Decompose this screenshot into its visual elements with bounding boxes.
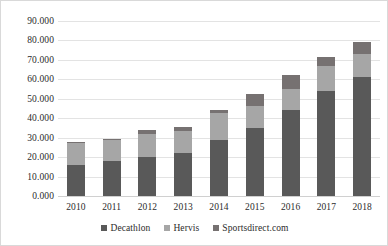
- y-axis-tick-label: 50.000: [27, 94, 54, 104]
- x-axis-tick-label: 2011: [94, 197, 130, 217]
- stacked-bar[interactable]: [317, 57, 335, 196]
- y-axis-tick-label: 0.000: [32, 191, 54, 201]
- bar-segment-hervis[interactable]: [353, 54, 371, 77]
- legend-item-decathlon[interactable]: Decathlon: [101, 223, 150, 233]
- y-axis-tick-label: 90.000: [27, 16, 54, 26]
- bar-segment-decathlon[interactable]: [138, 157, 156, 196]
- bar-series-group: [58, 21, 380, 196]
- bar-segment-decathlon[interactable]: [317, 91, 335, 196]
- stacked-bar[interactable]: [282, 75, 300, 197]
- bar-segment-hervis[interactable]: [210, 113, 228, 139]
- x-axis-tick-label: 2018: [344, 197, 380, 217]
- bar-slot: [273, 21, 309, 196]
- stacked-bar[interactable]: [246, 94, 264, 196]
- bar-segment-decathlon[interactable]: [282, 110, 300, 196]
- stacked-bar[interactable]: [103, 139, 121, 196]
- bar-segment-sportsdirect-com[interactable]: [317, 57, 335, 66]
- bar-slot: [344, 21, 380, 196]
- bar-segment-decathlon[interactable]: [103, 161, 121, 196]
- bar-segment-decathlon[interactable]: [210, 140, 228, 196]
- bar-slot: [58, 21, 94, 196]
- legend-label: Sportsdirect.com: [222, 223, 288, 233]
- legend-swatch-icon: [101, 225, 107, 231]
- bar-segment-hervis[interactable]: [317, 66, 335, 91]
- chart-legend: DecathlonHervisSportsdirect.com: [1, 223, 388, 233]
- y-axis: 0.00010.00020.00030.00040.00050.00060.00…: [1, 21, 54, 196]
- y-axis-tick-label: 70.000: [27, 55, 54, 65]
- stacked-bar[interactable]: [353, 42, 371, 196]
- x-axis-tick-label: 2015: [237, 197, 273, 217]
- y-axis-tick-label: 80.000: [27, 35, 54, 45]
- legend-swatch-icon: [213, 225, 219, 231]
- bar-segment-hervis[interactable]: [138, 134, 156, 157]
- x-axis: 201020112012201320142015201620172018: [58, 197, 380, 217]
- x-axis-tick-label: 2017: [308, 197, 344, 217]
- bar-segment-hervis[interactable]: [103, 140, 121, 161]
- x-axis-tick-label: 2010: [58, 197, 94, 217]
- bar-segment-hervis[interactable]: [67, 143, 85, 165]
- legend-item-hervis[interactable]: Hervis: [164, 223, 199, 233]
- bar-slot: [94, 21, 130, 196]
- bar-segment-hervis[interactable]: [174, 131, 192, 153]
- bar-slot: [237, 21, 273, 196]
- x-axis-tick-label: 2013: [165, 197, 201, 217]
- stacked-bar[interactable]: [138, 130, 156, 196]
- stacked-bar[interactable]: [174, 127, 192, 196]
- bar-slot: [165, 21, 201, 196]
- stacked-bar[interactable]: [67, 142, 85, 196]
- bar-segment-decathlon[interactable]: [67, 165, 85, 196]
- stacked-bar[interactable]: [210, 110, 228, 197]
- bar-slot: [308, 21, 344, 196]
- y-axis-tick-label: 10.000: [27, 172, 54, 182]
- bar-segment-decathlon[interactable]: [246, 128, 264, 196]
- legend-swatch-icon: [164, 225, 170, 231]
- bar-segment-hervis[interactable]: [246, 106, 264, 128]
- y-axis-tick-label: 30.000: [27, 133, 54, 143]
- legend-label: Hervis: [173, 223, 199, 233]
- x-axis-tick-label: 2016: [273, 197, 309, 217]
- bar-segment-sportsdirect-com[interactable]: [282, 75, 300, 90]
- bar-segment-sportsdirect-com[interactable]: [353, 42, 371, 54]
- y-axis-tick-label: 60.000: [27, 74, 54, 84]
- bar-slot: [201, 21, 237, 196]
- bar-segment-sportsdirect-com[interactable]: [246, 94, 264, 106]
- x-axis-tick-label: 2014: [201, 197, 237, 217]
- bar-segment-hervis[interactable]: [282, 89, 300, 110]
- bar-slot: [130, 21, 166, 196]
- legend-label: Decathlon: [110, 223, 150, 233]
- x-axis-tick-label: 2012: [130, 197, 166, 217]
- bar-segment-decathlon[interactable]: [174, 153, 192, 196]
- y-axis-tick-label: 40.000: [27, 113, 54, 123]
- y-axis-tick-label: 20.000: [27, 152, 54, 162]
- bar-segment-decathlon[interactable]: [353, 77, 371, 196]
- legend-item-sportsdirect-com[interactable]: Sportsdirect.com: [213, 223, 288, 233]
- stacked-bar-chart: 0.00010.00020.00030.00040.00050.00060.00…: [0, 0, 388, 246]
